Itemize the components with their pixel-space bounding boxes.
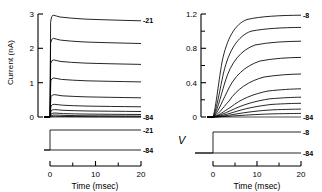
left-time-axis: 0 10 20 Time (msec) — [48, 161, 146, 191]
right-trace-label-top: -8 — [303, 12, 309, 19]
right-ytick-0-4: 0.4 — [186, 79, 198, 88]
right-ytick-0-8: 0.8 — [186, 44, 198, 53]
left-ytick-0: 0 — [30, 113, 35, 122]
right-current-traces — [207, 15, 301, 117]
right-plot-svg: 1.2 0.8 0.4 0 -8 -84 V — [161, 0, 322, 192]
left-current-axis: 3 2 1 0 — [30, 10, 43, 122]
left-plot-svg: 3 2 1 0 -21 -84 — [0, 0, 161, 192]
left-y-axis-label: Current (nA) — [6, 35, 15, 91]
right-x-axis-label: Time (msec) — [234, 181, 281, 191]
left-current-traces — [44, 15, 141, 117]
right-time-axis: 0 10 20 Time (msec) — [211, 161, 306, 191]
left-xtick-20: 20 — [137, 170, 146, 179]
right-voltage-label-top: -8 — [303, 129, 309, 136]
right-voltage-label-bottom: -84 — [303, 150, 313, 157]
left-ytick-3: 3 — [30, 10, 35, 19]
left-xtick-0: 0 — [48, 170, 53, 179]
right-ytick-0: 0 — [193, 113, 198, 122]
left-trace-label-bottom: -84 — [143, 114, 153, 121]
left-trace-label-top: -21 — [143, 17, 153, 24]
panel-right: 1.2 0.8 0.4 0 -8 -84 V — [161, 0, 322, 192]
right-current-axis: 1.2 0.8 0.4 0 — [186, 10, 206, 122]
left-voltage-label-top: -21 — [143, 127, 153, 134]
right-voltage-protocol — [195, 132, 301, 153]
right-voltage-symbol: V — [178, 134, 187, 146]
right-trace-label-bottom: -84 — [303, 114, 313, 121]
left-voltage-label-bottom: -84 — [143, 147, 153, 154]
right-xtick-0: 0 — [211, 170, 216, 179]
right-xtick-10: 10 — [253, 170, 262, 179]
right-xtick-20: 20 — [297, 170, 306, 179]
left-ytick-2: 2 — [30, 44, 35, 53]
left-x-axis-label: Time (msec) — [72, 181, 119, 191]
figure-root: Current (nA) 3 2 1 0 — [0, 0, 322, 192]
panel-left: Current (nA) 3 2 1 0 — [0, 0, 161, 192]
right-ytick-1-2: 1.2 — [186, 10, 198, 19]
left-voltage-protocol — [44, 130, 141, 150]
left-ytick-1: 1 — [30, 79, 35, 88]
left-xtick-10: 10 — [91, 170, 100, 179]
